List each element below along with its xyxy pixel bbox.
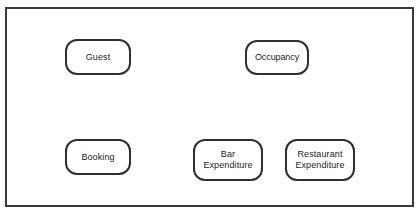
node-booking[interactable]: Booking (65, 139, 131, 175)
diagram-canvas: Guest Occupancy Booking Bar Expenditure … (0, 0, 420, 218)
diagram-frame: Guest Occupancy Booking Bar Expenditure … (5, 7, 414, 207)
node-bar-expenditure-label: Bar Expenditure (201, 149, 254, 171)
node-occupancy[interactable]: Occupancy (245, 40, 309, 75)
node-booking-label: Booking (79, 152, 116, 163)
node-guest[interactable]: Guest (65, 39, 131, 75)
node-restaurant-expenditure[interactable]: Restaurant Expenditure (285, 139, 355, 181)
node-guest-label: Guest (84, 52, 113, 63)
node-bar-expenditure[interactable]: Bar Expenditure (193, 139, 263, 181)
node-restaurant-expenditure-label: Restaurant Expenditure (293, 149, 346, 171)
node-occupancy-label: Occupancy (253, 52, 301, 63)
